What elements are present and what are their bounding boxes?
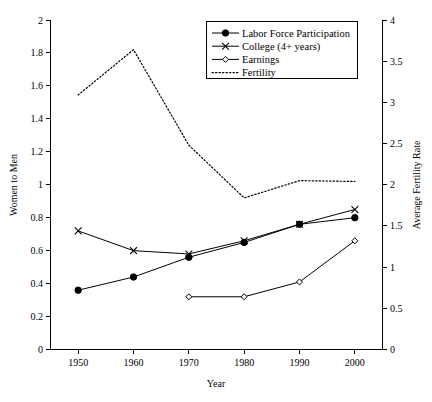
y-axis-right-tick-label: 2.5	[390, 138, 403, 149]
data-point	[186, 254, 192, 260]
y-axis-left-tick-label: 1.4	[31, 113, 44, 124]
y-axis-left-tick-label: 1.8	[31, 47, 44, 58]
y-axis-right-tick-label: 1.5	[390, 220, 403, 231]
y-axis-left-tick-label: 1.2	[31, 146, 44, 157]
y-axis-left-tick-label: 0	[38, 344, 43, 355]
y-axis-left-tick-label: 0.8	[31, 212, 44, 223]
y-axis-right-tick-label: 3.5	[390, 56, 403, 67]
y-axis-right-tick-label: 0.5	[390, 303, 403, 314]
data-point	[352, 215, 358, 221]
y-axis-left-tick-label: 0.2	[31, 311, 44, 322]
chart-legend: Labor Force ParticipationCollege (4+ yea…	[207, 22, 358, 79]
legend-item-label: Earnings	[242, 54, 279, 65]
legend-item-label: Fertility	[242, 67, 277, 78]
y-axis-left-tick-label: 2	[38, 15, 43, 26]
y-axis-right-tick-label: 4	[390, 15, 395, 26]
data-point	[75, 287, 81, 293]
y-axis-right-tick-label: 3	[390, 97, 395, 108]
chart-container: 00.20.40.60.811.21.41.61.82 00.511.522.5…	[0, 0, 432, 402]
legend-item-label: College (4+ years)	[242, 41, 321, 53]
fertility-gender-ratio-line-chart: 00.20.40.60.811.21.41.61.82 00.511.522.5…	[0, 0, 432, 402]
y-axis-left-tick-label: 0.6	[31, 245, 44, 256]
y-axis-right-tick-label: 1	[390, 262, 395, 273]
y-axis-right-title: Average Fertility Rate	[411, 140, 422, 229]
x-axis-tick-label: 1980	[234, 357, 254, 368]
y-axis-left-tick-label: 0.4	[31, 278, 44, 289]
y-axis-left-title: Women to Men	[8, 154, 19, 216]
y-axis-right-tick-label: 0	[390, 344, 395, 355]
x-axis-tick-label: 2000	[345, 357, 365, 368]
data-point	[130, 274, 136, 280]
y-axis-left-tick-label: 1.6	[31, 80, 44, 91]
x-axis-tick-label: 1970	[179, 357, 199, 368]
y-axis-right-tick-label: 2	[390, 179, 395, 190]
y-axis-left-tick-label: 1	[38, 179, 43, 190]
x-axis-title: Year	[207, 378, 226, 389]
legend-item-label: Labor Force Participation	[242, 28, 351, 39]
x-axis-tick-label: 1960	[124, 357, 144, 368]
x-axis-tick-label: 1990	[290, 357, 310, 368]
legend-sample-marker	[222, 30, 228, 36]
x-axis-tick-label: 1950	[68, 357, 88, 368]
